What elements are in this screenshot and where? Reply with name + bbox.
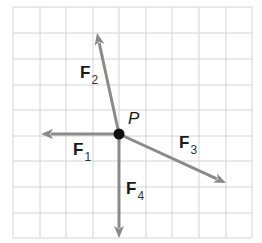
force-diagram: P F1 F2 F3 F4 — [0, 0, 262, 243]
vector-label-f4: F4 — [126, 180, 144, 197]
point-p-label: P — [128, 110, 139, 127]
vector-label-f3-name: F — [179, 133, 189, 152]
vector-label-f1-name: F — [73, 140, 83, 159]
vector-f2-shaft — [99, 43, 119, 134]
vector-label-f3: F3 — [179, 134, 197, 151]
vector-label-f1: F1 — [73, 141, 91, 158]
vector-label-f2-name: F — [80, 63, 90, 82]
vector-label-f2: F2 — [80, 64, 98, 81]
vector-f3-shaft — [119, 134, 217, 179]
vector-label-f2-subscript: 2 — [91, 73, 98, 87]
vector-label-f1-subscript: 1 — [84, 150, 91, 164]
vector-label-f3-subscript: 3 — [190, 143, 197, 157]
point-p — [114, 129, 125, 140]
vector-label-f4-name: F — [126, 179, 136, 198]
vector-label-f4-subscript: 4 — [137, 189, 144, 203]
